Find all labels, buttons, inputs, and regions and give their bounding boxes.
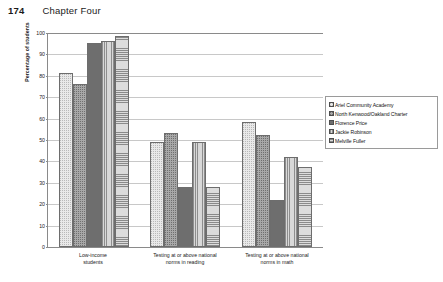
bar xyxy=(73,84,87,247)
legend-label: Melville Fuller xyxy=(335,138,365,144)
bar xyxy=(115,36,129,247)
y-axis-tick-label: 90 xyxy=(39,51,45,57)
y-axis-tick-label: 20 xyxy=(39,201,45,207)
legend-item[interactable]: Ariel Community Academy xyxy=(328,100,435,109)
legend-label: Ariel Community Academy xyxy=(335,102,394,108)
legend-swatch-icon xyxy=(329,120,334,125)
bar-group xyxy=(242,33,312,247)
y-axis-tick-label: 50 xyxy=(39,137,45,143)
bar xyxy=(87,43,101,247)
y-axis-tick-label: 10 xyxy=(39,223,45,229)
legend-swatch-icon xyxy=(329,111,334,116)
legend-item[interactable]: Melville Fuller xyxy=(328,136,435,145)
running-head: 174 Chapter Four xyxy=(8,5,101,19)
bar xyxy=(192,142,206,247)
y-axis-tick-label: 0 xyxy=(42,244,45,250)
x-axis-label: Testing at or above nationalnorms in rea… xyxy=(142,252,228,266)
x-axis-label: Testing at or above nationalnorms in mat… xyxy=(234,252,320,266)
x-axis-labels: Low-incomestudentsTesting at or above na… xyxy=(47,252,323,266)
page-number: 174 xyxy=(8,5,24,16)
chapter-title: Chapter Four xyxy=(42,5,100,16)
bar-group xyxy=(150,33,220,247)
legend-item[interactable]: North Kenwood/Oakland Charter xyxy=(328,109,435,118)
chart-legend: Ariel Community AcademyNorth Kenwood/Oak… xyxy=(325,96,438,149)
y-axis-tick-mark xyxy=(46,247,48,248)
y-axis-title: Percentage of students xyxy=(24,0,30,112)
bar-group xyxy=(59,33,129,247)
legend-swatch-icon xyxy=(329,138,334,143)
legend-label: Jackie Robinson xyxy=(335,129,372,135)
bar xyxy=(178,187,192,247)
plot-area: 0102030405060708090100 xyxy=(47,33,323,248)
x-axis-label: Low-incomestudents xyxy=(50,252,136,266)
bar xyxy=(270,200,284,247)
legend-item[interactable]: Florence Price xyxy=(328,118,435,127)
legend-swatch-icon xyxy=(329,129,334,134)
bar xyxy=(256,135,270,247)
y-axis-tick-label: 70 xyxy=(39,94,45,100)
legend-label: Florence Price xyxy=(335,120,367,126)
bar xyxy=(284,157,298,247)
legend-swatch-icon xyxy=(329,102,334,107)
bar xyxy=(206,187,220,247)
bar xyxy=(298,167,312,247)
bar xyxy=(101,41,115,247)
y-axis-tick-label: 100 xyxy=(36,30,45,36)
y-axis-tick-label: 60 xyxy=(39,116,45,122)
bar xyxy=(59,73,73,247)
legend-item[interactable]: Jackie Robinson xyxy=(328,127,435,136)
bar xyxy=(164,133,178,247)
bar xyxy=(150,142,164,247)
bar-groups xyxy=(48,33,323,247)
bar-chart: Percentage of students 01020304050607080… xyxy=(0,24,443,282)
legend-label: North Kenwood/Oakland Charter xyxy=(335,111,407,117)
y-axis-tick-label: 40 xyxy=(39,158,45,164)
y-axis-tick-label: 80 xyxy=(39,73,45,79)
bar xyxy=(242,122,256,247)
figure-page: 174 Chapter Four Percentage of students … xyxy=(0,0,443,282)
y-axis-tick-label: 30 xyxy=(39,180,45,186)
